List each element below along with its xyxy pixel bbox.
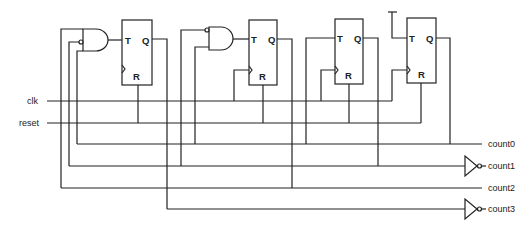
- pin-r: R: [259, 71, 266, 82]
- inversion-bubble-icon: [478, 207, 482, 211]
- count2-label: count2: [488, 183, 515, 193]
- pin-q: Q: [142, 35, 149, 46]
- pin-r: R: [418, 69, 425, 80]
- inverter-triangle-icon: [465, 156, 477, 176]
- and-gate-2: [181, 27, 249, 166]
- inverter-triangle-icon: [465, 199, 477, 219]
- count1-label: count1: [488, 161, 515, 171]
- pin-q: Q: [354, 33, 361, 44]
- pin-t: T: [125, 35, 131, 46]
- flip-flop-4: T Q R: [388, 12, 450, 144]
- reset-label: reset: [19, 118, 40, 128]
- and-gate-2-body: [209, 27, 233, 50]
- inversion-bubble-icon: [478, 164, 482, 168]
- inversion-bubble-icon: [205, 28, 209, 32]
- pin-q: Q: [268, 34, 275, 45]
- flip-flop-2: T Q R: [234, 20, 292, 188]
- circuit-diagram: clk reset T Q R: [0, 0, 529, 231]
- count3-label: count3: [488, 204, 515, 214]
- pin-r: R: [345, 70, 352, 81]
- count0-label: count0: [488, 139, 515, 149]
- pin-t: T: [337, 33, 343, 44]
- inverter-count1: [465, 156, 486, 176]
- reset-input: reset: [19, 118, 421, 128]
- clk-input: clk: [27, 96, 392, 106]
- pin-q: Q: [426, 33, 433, 44]
- pin-t: T: [409, 33, 415, 44]
- clk-label: clk: [27, 96, 38, 106]
- inverter-count3: [465, 199, 486, 219]
- inversion-bubble-icon: [79, 40, 83, 44]
- and-gate-1: [61, 29, 122, 188]
- pin-t: T: [251, 34, 257, 45]
- flip-flop-1: T Q R: [122, 20, 167, 209]
- pin-r: R: [133, 71, 140, 82]
- and-gate-1-body: [83, 29, 108, 51]
